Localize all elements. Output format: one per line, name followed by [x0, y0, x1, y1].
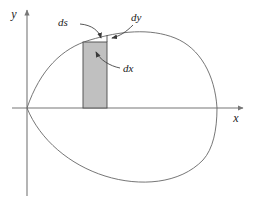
dy-leader-arrow [112, 25, 133, 38]
y-axis-label: y [10, 7, 17, 21]
dx-label: dx [123, 62, 134, 74]
calculus-area-diagram: ds dy dx y x [0, 0, 254, 208]
curve-lower-branch [27, 108, 217, 182]
differential-area-rectangle [83, 42, 107, 108]
curve-upper-branch [27, 32, 217, 108]
x-axis-label: x [232, 111, 239, 125]
dy-label: dy [131, 11, 142, 23]
ds-leader-arrow [80, 24, 101, 38]
ds-label: ds [58, 16, 68, 28]
figure-container: ds dy dx y x [0, 0, 254, 208]
